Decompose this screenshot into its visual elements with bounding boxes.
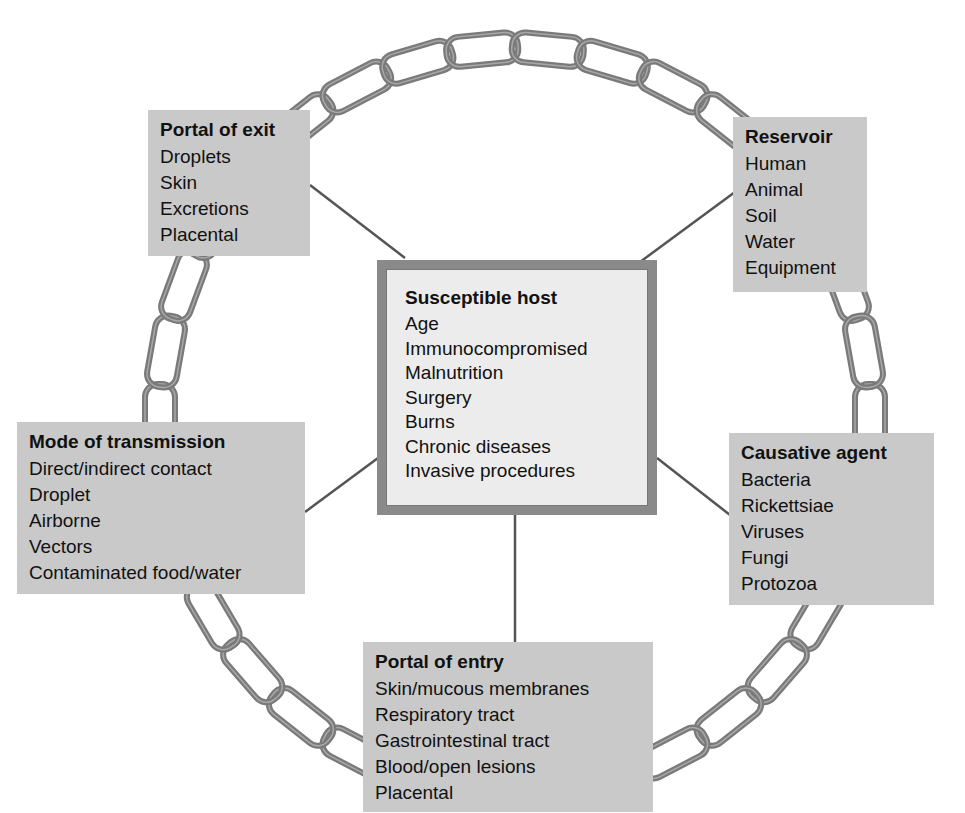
list-item: Blood/open lesions (375, 754, 641, 780)
list-item: Respiratory tract (375, 702, 641, 728)
list-item: Malnutrition (405, 361, 647, 386)
causative-agent-title: Causative agent (741, 441, 922, 465)
list-item: Contaminated food/water (29, 560, 293, 586)
susceptible-host-title: Susceptible host (405, 286, 647, 310)
list-item: Bacteria (741, 467, 922, 493)
list-item: Placental (160, 222, 298, 248)
list-item: Droplets (160, 144, 298, 170)
list-item: Protozoa (741, 571, 922, 597)
list-item: Excretions (160, 196, 298, 222)
chain-link (145, 314, 187, 390)
connector-mode (305, 458, 378, 512)
list-item: Water (745, 229, 855, 255)
chain-link (843, 314, 885, 390)
mode-of-transmission-title: Mode of transmission (29, 430, 293, 454)
portal-of-entry-box: Portal of entry Skin/mucous membranes Re… (363, 642, 653, 812)
mode-of-transmission-box: Mode of transmission Direct/indirect con… (17, 422, 305, 594)
list-item: Rickettsiae (741, 493, 922, 519)
connector-portal-exit (310, 185, 405, 258)
susceptible-host-box: Susceptible host Age Immunocompromised M… (377, 260, 657, 515)
list-item: Human (745, 151, 855, 177)
reservoir-title: Reservoir (745, 125, 855, 149)
list-item: Chronic diseases (405, 435, 647, 460)
list-item: Vectors (29, 534, 293, 560)
list-item: Immunocompromised (405, 337, 647, 362)
list-item: Droplet (29, 482, 293, 508)
list-item: Invasive procedures (405, 459, 647, 484)
list-item: Age (405, 312, 647, 337)
portal-of-entry-title: Portal of entry (375, 650, 641, 674)
portal-of-exit-title: Portal of exit (160, 118, 298, 142)
causative-agent-box: Causative agent Bacteria Rickettsiae Vir… (729, 433, 934, 605)
list-item: Viruses (741, 519, 922, 545)
list-item: Skin/mucous membranes (375, 676, 641, 702)
list-item: Skin (160, 170, 298, 196)
portal-of-exit-box: Portal of exit Droplets Skin Excretions … (148, 110, 310, 256)
list-item: Placental (375, 780, 641, 806)
reservoir-box: Reservoir Human Animal Soil Water Equipm… (733, 117, 867, 292)
connector-causative (657, 458, 730, 515)
list-item: Surgery (405, 386, 647, 411)
list-item: Soil (745, 203, 855, 229)
list-item: Fungi (741, 545, 922, 571)
connector-reservoir (640, 192, 735, 262)
list-item: Animal (745, 177, 855, 203)
list-item: Equipment (745, 255, 855, 281)
list-item: Direct/indirect contact (29, 456, 293, 482)
list-item: Burns (405, 410, 647, 435)
list-item: Airborne (29, 508, 293, 534)
susceptible-host-inner: Susceptible host Age Immunocompromised M… (386, 269, 648, 506)
list-item: Gastrointestinal tract (375, 728, 641, 754)
chain-link (634, 57, 712, 117)
